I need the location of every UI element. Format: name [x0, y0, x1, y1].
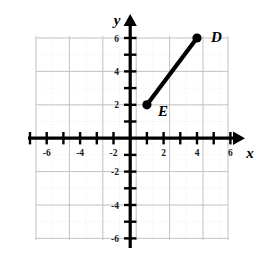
y-tick-label-pos6: 6: [114, 34, 119, 44]
x-tick-label-neg2: -2: [110, 148, 118, 158]
point-d-label: D: [210, 29, 222, 45]
coordinate-plane-svg: -6 -4 -2 2 4 6 6 4 2 -2 -4 -6 y x D E: [0, 0, 266, 267]
figure-background: [0, 0, 266, 267]
y-tick-label-pos4: 4: [114, 67, 119, 77]
point-d-dot: [192, 33, 201, 42]
y-axis-label: y: [112, 12, 121, 28]
x-tick-label-pos4: 4: [195, 148, 200, 158]
x-tick-label-neg6: -6: [43, 148, 51, 158]
x-tick-label-pos2: 2: [161, 148, 166, 158]
x-axis-label: x: [245, 145, 254, 161]
y-tick-label-neg6: -6: [111, 234, 119, 244]
y-tick-label-neg2: -2: [111, 167, 119, 177]
coordinate-plane-figure: -6 -4 -2 2 4 6 6 4 2 -2 -4 -6 y x D E: [0, 0, 266, 267]
y-tick-label-pos2: 2: [114, 100, 119, 110]
point-e-dot: [142, 100, 151, 109]
y-tick-label-neg4: -4: [111, 201, 119, 211]
x-tick-label-pos6: 6: [228, 148, 233, 158]
x-tick-label-neg4: -4: [76, 148, 84, 158]
point-e-label: E: [157, 103, 168, 119]
